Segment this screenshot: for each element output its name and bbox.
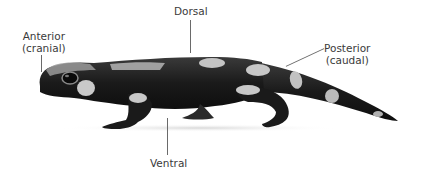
tail-spot <box>373 111 383 117</box>
leader-line-dorsal <box>190 20 191 53</box>
tail-spot <box>325 89 339 103</box>
leader-line-ventral <box>167 118 168 155</box>
leg-spot <box>236 85 260 95</box>
label-dorsal: Dorsal <box>174 5 208 17</box>
eye <box>62 72 78 84</box>
leg-spot <box>129 93 147 103</box>
dorsal-spot <box>199 58 225 68</box>
label-posterior-line2: (caudal) <box>324 54 370 66</box>
label-anterior-line2: (cranial) <box>22 42 66 54</box>
anatomy-diagram: Anterior (cranial) Dorsal Posterior (cau… <box>0 0 424 180</box>
dorsal-stripe <box>110 62 165 70</box>
salamander-illustration <box>0 0 424 180</box>
leader-line-anterior <box>41 55 42 72</box>
label-ventral: Ventral <box>150 157 187 169</box>
label-anterior: Anterior (cranial) <box>22 30 66 54</box>
dorsal-spot <box>246 64 270 76</box>
label-anterior-line1: Anterior <box>22 30 66 42</box>
label-posterior-line1: Posterior <box>324 42 370 54</box>
label-posterior: Posterior (caudal) <box>324 42 370 66</box>
parotoid-spot <box>77 80 95 96</box>
ground-shadow <box>60 124 340 132</box>
